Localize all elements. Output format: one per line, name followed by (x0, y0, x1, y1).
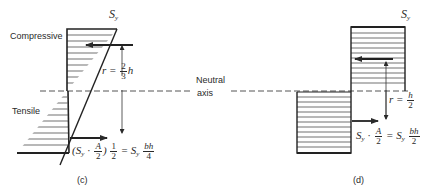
neutral-axis-label-line1: Neutral (196, 76, 225, 85)
force-formula-c: (Sy · A2) 12 = Sy bh4 (72, 142, 155, 161)
lever-arm-formula-c: r = 23h (102, 62, 133, 81)
caption-d: (d) (353, 176, 364, 185)
force-formula-d: Sy · A2 = Sy bh2 (356, 127, 421, 146)
tensile-label: Tensile (12, 107, 40, 116)
tensile-triangle (10, 91, 75, 153)
neutral-axis-label-line2: axis (197, 89, 213, 98)
lever-arm-formula-d: r = h2 (389, 91, 415, 110)
stress-distribution-diagram (0, 0, 427, 191)
tensile-rectangle (297, 91, 351, 153)
sy-label-d: Sy (401, 8, 410, 22)
sy-label-c: Sy (109, 8, 118, 22)
compressive-label: Compressive (10, 32, 63, 41)
caption-c: (c) (77, 176, 88, 185)
